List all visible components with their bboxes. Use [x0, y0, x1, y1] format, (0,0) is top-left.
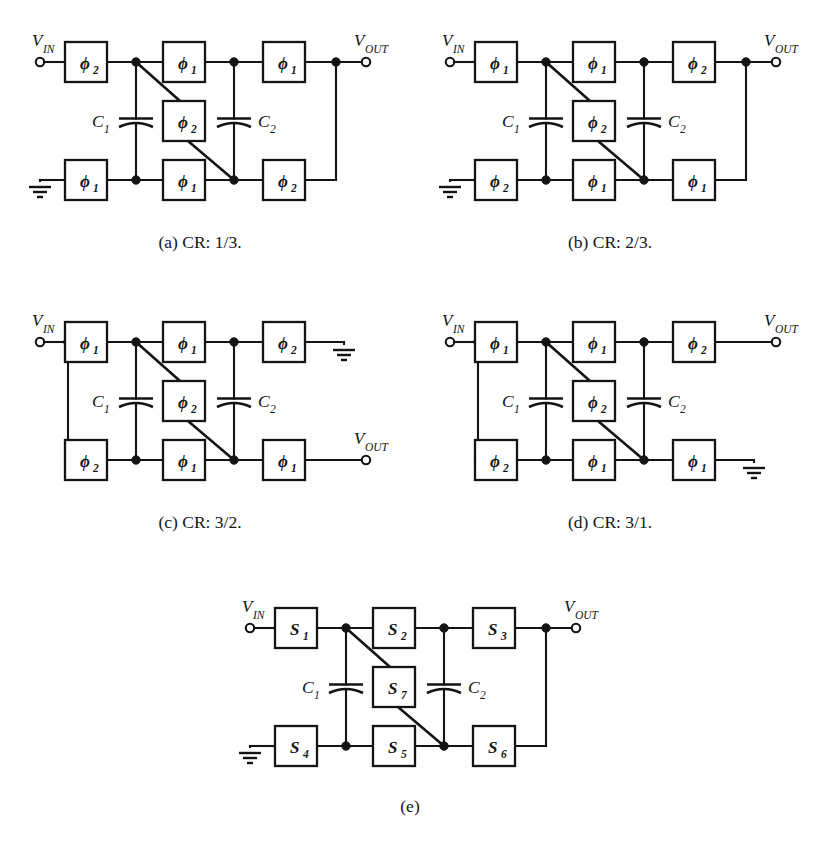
capacitor-c2	[217, 62, 251, 180]
node-c1-top-dot	[132, 338, 140, 346]
switch-bottom-mid-subscript: 1	[601, 182, 607, 194]
switch-middle[interactable]: S7	[373, 667, 415, 707]
node-c1-bottom-dot	[342, 742, 350, 750]
switch-top-left[interactable]: ϕ2	[65, 42, 107, 82]
capacitor-c1	[529, 342, 563, 460]
vout-label-subscript: OUT	[575, 609, 600, 621]
capacitor-c1-label-main: C	[302, 677, 314, 697]
circuit-figure-e: VINVOUTS1S2S3S4S5S6C1C2S7	[228, 594, 598, 789]
switch-top-right[interactable]: S3	[473, 608, 515, 648]
switch-bottom-mid-label: ϕ	[178, 172, 188, 191]
capacitor-c2-label-main: C	[668, 111, 680, 131]
node-right-top-dot	[542, 624, 550, 632]
switch-bottom-mid[interactable]: S5	[373, 726, 415, 766]
switch-bottom-left[interactable]: ϕ2	[475, 160, 517, 200]
switch-top-right[interactable]: ϕ2	[263, 322, 305, 362]
switch-bottom-mid[interactable]: ϕ1	[163, 160, 205, 200]
switch-top-right-label: ϕ	[278, 334, 288, 353]
switch-top-left[interactable]: ϕ1	[475, 42, 517, 82]
capacitor-c1-label-subscript: 1	[104, 123, 110, 135]
capacitor-c1-label-main: C	[502, 111, 514, 131]
switch-bottom-mid[interactable]: ϕ1	[163, 440, 205, 480]
switch-top-right-subscript: 2	[700, 344, 707, 356]
switch-bottom-left-label: ϕ	[80, 452, 90, 471]
node-c1-bottom-dot	[132, 176, 140, 184]
capacitor-c1-label: C1	[302, 677, 320, 701]
capacitor-c1-label: C1	[92, 391, 110, 415]
node-c2-bottom-dot	[230, 176, 238, 184]
capacitor-c1-label-subscript: 1	[514, 403, 520, 415]
caption-c: (c) CR: 3/2.	[100, 512, 300, 533]
switch-bottom-right[interactable]: ϕ1	[673, 160, 715, 200]
vin-terminal	[36, 58, 44, 66]
switch-top-left[interactable]: S1	[275, 608, 317, 648]
switch-bottom-mid[interactable]: ϕ1	[573, 160, 615, 200]
vout-label: VOUT	[354, 31, 390, 55]
ground-symbol-left	[439, 187, 461, 197]
switch-middle[interactable]: ϕ2	[573, 101, 615, 141]
switch-bottom-right-subscript: 1	[701, 182, 707, 194]
switch-middle-label: ϕ	[178, 393, 188, 412]
switch-middle[interactable]: ϕ2	[163, 381, 205, 421]
switch-top-right-subscript: 2	[700, 64, 707, 76]
switch-bottom-right[interactable]: S6	[473, 726, 515, 766]
switch-bottom-left[interactable]: ϕ2	[65, 440, 107, 480]
switch-top-mid[interactable]: ϕ1	[163, 322, 205, 362]
switch-middle[interactable]: ϕ2	[163, 101, 205, 141]
switch-middle-subscript: 2	[190, 403, 197, 415]
switch-top-left[interactable]: ϕ1	[65, 322, 107, 362]
switch-middle-label: ϕ	[588, 113, 598, 132]
capacitor-c1-label: C1	[92, 111, 110, 135]
switch-top-right-subscript: 2	[290, 344, 297, 356]
node-c1-top-dot	[542, 58, 550, 66]
capacitor-c1-label-main: C	[92, 111, 104, 131]
switch-top-mid-subscript: 1	[191, 64, 197, 76]
switch-bottom-mid-label: S	[388, 738, 397, 757]
switch-top-left[interactable]: ϕ1	[475, 322, 517, 362]
switch-bottom-mid-subscript: 1	[191, 182, 197, 194]
vout-label-subscript: OUT	[775, 43, 800, 55]
switch-bottom-right-subscript: 2	[290, 182, 297, 194]
switch-top-mid[interactable]: ϕ1	[573, 322, 615, 362]
switch-top-right-subscript: 3	[500, 630, 507, 642]
switch-top-mid-label: S	[388, 620, 397, 639]
switch-top-right-subscript: 1	[291, 64, 297, 76]
vout-label-subscript: OUT	[775, 323, 800, 335]
capacitor-c1-label: C1	[502, 391, 520, 415]
switch-middle[interactable]: ϕ2	[573, 381, 615, 421]
capacitor-c2-label-main: C	[468, 677, 480, 697]
switch-bottom-right-label: ϕ	[688, 452, 698, 471]
switch-bottom-mid[interactable]: ϕ1	[573, 440, 615, 480]
capacitor-c2-label-main: C	[258, 111, 270, 131]
switch-top-mid[interactable]: ϕ1	[573, 42, 615, 82]
cut-off-header-text	[0, 0, 821, 8]
switch-top-mid-label: ϕ	[588, 334, 598, 353]
ground-symbol-right	[743, 468, 765, 478]
vin-label: VIN	[242, 597, 266, 621]
switch-bottom-left[interactable]: S4	[275, 726, 317, 766]
switch-top-right[interactable]: ϕ2	[673, 322, 715, 362]
vin-label: VIN	[32, 311, 56, 335]
switch-bottom-left[interactable]: ϕ1	[65, 160, 107, 200]
switch-bottom-left[interactable]: ϕ2	[475, 440, 517, 480]
switch-top-right[interactable]: ϕ1	[263, 42, 305, 82]
capacitor-c2-label: C2	[468, 677, 486, 701]
switch-bottom-right[interactable]: ϕ1	[673, 440, 715, 480]
vin-label: VIN	[442, 311, 466, 335]
vout-label: VOUT	[764, 311, 800, 335]
switch-bottom-right[interactable]: ϕ1	[263, 440, 305, 480]
switch-top-left-label: ϕ	[490, 54, 500, 73]
switch-top-mid[interactable]: S2	[373, 608, 415, 648]
vin-terminal	[446, 338, 454, 346]
switch-bottom-mid-label: ϕ	[588, 172, 598, 191]
capacitor-c2-label-subscript: 2	[270, 123, 276, 135]
capacitor-c1-label: C1	[502, 111, 520, 135]
ground-symbol-right	[333, 350, 355, 360]
switch-bottom-right[interactable]: ϕ2	[263, 160, 305, 200]
switch-top-right[interactable]: ϕ2	[673, 42, 715, 82]
switch-top-mid-subscript: 1	[191, 344, 197, 356]
switch-top-mid[interactable]: ϕ1	[163, 42, 205, 82]
switch-top-mid-subscript: 1	[601, 344, 607, 356]
switch-bottom-right-subscript: 1	[291, 462, 297, 474]
vout-label: VOUT	[564, 597, 600, 621]
